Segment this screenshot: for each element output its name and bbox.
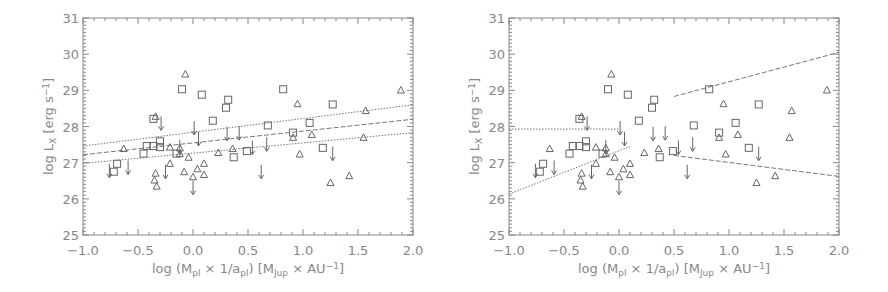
- arrow-down-icon: [126, 160, 131, 174]
- x-tick-label: 1.5: [774, 243, 795, 258]
- fit-line: [83, 119, 413, 154]
- x-tick-label: 1.0: [293, 243, 314, 258]
- y-axis-label: log LX [erg s−1]: [41, 78, 58, 175]
- arrow-down-icon: [685, 165, 690, 179]
- x-tick-label: 0.0: [183, 243, 204, 258]
- arrow-down-icon: [663, 126, 668, 140]
- triangle-marker: [346, 172, 353, 179]
- triangle-marker: [166, 144, 173, 151]
- triangle-marker: [194, 165, 201, 172]
- arrow-down-icon: [330, 147, 335, 161]
- square-marker: [179, 86, 186, 93]
- triangle-marker: [655, 145, 662, 152]
- x-tick-label: −0.5: [122, 243, 154, 258]
- triangle-marker: [722, 150, 729, 157]
- triangle-marker: [620, 165, 627, 172]
- arrow-down-icon: [622, 132, 627, 146]
- square-marker: [669, 148, 676, 155]
- y-tick-label: 29: [62, 83, 79, 98]
- triangle-marker: [190, 173, 197, 180]
- x-tick-label: −0.5: [548, 243, 580, 258]
- square-marker: [569, 143, 576, 150]
- square-marker: [290, 129, 297, 136]
- square-marker: [690, 122, 697, 129]
- arrow-down-icon: [163, 165, 168, 179]
- arrow-down-icon: [225, 127, 230, 141]
- arrow-down-icon: [107, 164, 112, 178]
- triangle-marker: [546, 145, 553, 152]
- square-marker: [716, 129, 723, 136]
- arrow-down-icon: [196, 132, 201, 146]
- square-marker: [656, 154, 663, 161]
- square-marker: [576, 143, 583, 150]
- x-axis-label: log (Mpl × 1/apl) [MJup × AU−1]: [152, 261, 344, 278]
- square-marker: [745, 144, 752, 151]
- arrow-down-icon: [191, 181, 196, 195]
- square-marker: [280, 86, 287, 93]
- plot-frame: [83, 18, 413, 235]
- arrow-down-icon: [533, 164, 538, 178]
- x-tick-label: 2.0: [829, 243, 850, 258]
- square-marker: [209, 117, 216, 124]
- triangle-marker: [607, 168, 614, 175]
- y-tick-label: 26: [62, 192, 79, 207]
- triangle-marker: [153, 183, 160, 190]
- fit-line: [674, 155, 839, 176]
- y-tick-label: 25: [488, 228, 505, 243]
- x-tick-label: 0.0: [609, 243, 630, 258]
- arrow-down-icon: [756, 147, 761, 161]
- x-tick-label: 1.0: [719, 243, 740, 258]
- y-tick-label: 29: [488, 83, 505, 98]
- square-marker: [114, 160, 121, 167]
- triangle-marker: [120, 145, 127, 152]
- y-tick-label: 31: [62, 11, 79, 26]
- x-tick-label: 2.0: [403, 243, 424, 258]
- square-marker: [540, 160, 547, 167]
- x-tick-label: −1.0: [493, 243, 525, 258]
- square-marker: [230, 154, 237, 161]
- square-marker: [329, 101, 336, 108]
- y-tick-label: 30: [62, 47, 79, 62]
- arrow-down-icon: [264, 137, 269, 151]
- triangle-marker: [185, 154, 192, 161]
- square-marker: [635, 117, 642, 124]
- triangle-marker: [152, 113, 159, 120]
- arrow-down-icon: [159, 116, 164, 130]
- triangle-marker: [823, 86, 830, 93]
- y-tick-label: 25: [62, 228, 79, 243]
- arrow-down-icon: [690, 137, 695, 151]
- y-axis-label: log LX [erg s−1]: [467, 78, 484, 175]
- square-marker: [732, 119, 739, 126]
- y-tick-label: 27: [488, 156, 505, 171]
- arrow-down-icon: [585, 116, 590, 130]
- y-tick-label: 30: [488, 47, 505, 62]
- square-marker: [605, 86, 612, 93]
- triangle-marker: [772, 172, 779, 179]
- triangle-marker: [362, 107, 369, 114]
- fit-line: [674, 52, 839, 96]
- square-marker: [223, 104, 230, 111]
- triangle-marker: [290, 134, 297, 141]
- triangle-marker: [327, 179, 334, 186]
- square-marker: [566, 150, 573, 157]
- triangle-marker: [734, 131, 741, 138]
- x-tick-label: 0.5: [664, 243, 685, 258]
- triangle-marker: [308, 131, 315, 138]
- y-tick-label: 26: [488, 192, 505, 207]
- y-tick-label: 28: [62, 120, 79, 135]
- square-marker: [306, 119, 313, 126]
- square-marker: [143, 143, 150, 150]
- triangle-marker: [182, 71, 189, 78]
- chart-right: −1.0−0.50.00.51.01.52.025262728293031log…: [444, 0, 888, 292]
- square-marker: [649, 104, 656, 111]
- x-axis-label: log (Mpl × 1/apl) [MJup × AU−1]: [578, 261, 770, 278]
- triangle-marker: [294, 100, 301, 107]
- square-marker: [140, 150, 147, 157]
- triangle-marker: [151, 177, 158, 184]
- triangle-marker: [215, 149, 222, 156]
- triangle-marker: [611, 154, 618, 161]
- triangle-marker: [577, 177, 584, 184]
- triangle-marker: [166, 160, 173, 167]
- arrow-down-icon: [192, 121, 197, 135]
- triangle-marker: [627, 160, 634, 167]
